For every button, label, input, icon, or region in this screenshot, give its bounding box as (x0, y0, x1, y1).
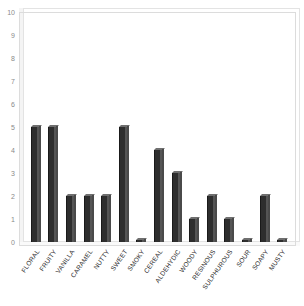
x-axis-labels: FLORALFRUITYVANILLACARAMELNUTTYSWEETSMOK… (23, 248, 293, 306)
x-label-slot: MUSTY (272, 248, 290, 306)
y-axis-tick-label: 7 (11, 78, 15, 85)
bar-slot (44, 12, 62, 242)
x-label-slot: SWEET (114, 248, 132, 306)
bar-slot (255, 12, 273, 242)
y-axis-tick-label: 9 (11, 32, 15, 39)
x-label-slot: SOAPY (255, 248, 273, 306)
y-axis-tick-label: 8 (11, 55, 15, 62)
y-axis-tick-label: 4 (11, 147, 15, 154)
x-label-slot: SMOKY (132, 248, 150, 306)
bar (207, 196, 215, 242)
x-axis-tick-label: FLORAL (20, 248, 41, 274)
x-label-slot: NUTTY (96, 248, 114, 306)
x-label-slot: CARAMEL (79, 248, 97, 306)
x-label-slot: FRUITY (44, 248, 62, 306)
y-axis-tick-label: 10 (7, 9, 15, 16)
y-axis-tick-label: 1 (11, 216, 15, 223)
bar-slot (132, 12, 150, 242)
plot-area (23, 12, 293, 242)
bar (119, 127, 127, 242)
x-label-slot: SULPHUROUS (220, 248, 238, 306)
bar-slot (149, 12, 167, 242)
bar (172, 173, 180, 242)
y-axis-tick-label: 6 (11, 101, 15, 108)
bar-slot (237, 12, 255, 242)
bar (136, 240, 144, 242)
x-axis-tick-label: SOUR (235, 248, 252, 268)
bar (260, 196, 268, 242)
bar-slot (184, 12, 202, 242)
bar-slot (96, 12, 114, 242)
bar-slot (114, 12, 132, 242)
bar-slot (61, 12, 79, 242)
clipped-title-text (0, 0, 304, 4)
bar-chart-figure: 012345678910 FLORALFRUITYVANILLACARAMELN… (0, 0, 304, 306)
bar (31, 127, 39, 242)
x-label-slot: ALDEHYDIC (167, 248, 185, 306)
bar-slot (202, 12, 220, 242)
y-axis-tick-label: 3 (11, 170, 15, 177)
y-axis: 012345678910 (0, 12, 19, 246)
y-axis-tick-label: 5 (11, 124, 15, 131)
bar (101, 196, 109, 242)
x-label-slot: FLORAL (26, 248, 44, 306)
bar (154, 150, 162, 242)
bar (66, 196, 74, 242)
bar (224, 219, 232, 242)
bar (277, 240, 285, 242)
x-label-slot: SOUR (237, 248, 255, 306)
y-axis-tick-label: 2 (11, 193, 15, 200)
bar-slot (272, 12, 290, 242)
bar (189, 219, 197, 242)
bar-slot (26, 12, 44, 242)
bar (84, 196, 92, 242)
y-axis-tick-label: 0 (11, 239, 15, 246)
bar-slot (220, 12, 238, 242)
bar-slot (167, 12, 185, 242)
bar-series (23, 12, 293, 242)
bar (48, 127, 56, 242)
bar (242, 240, 250, 242)
bar-slot (79, 12, 97, 242)
